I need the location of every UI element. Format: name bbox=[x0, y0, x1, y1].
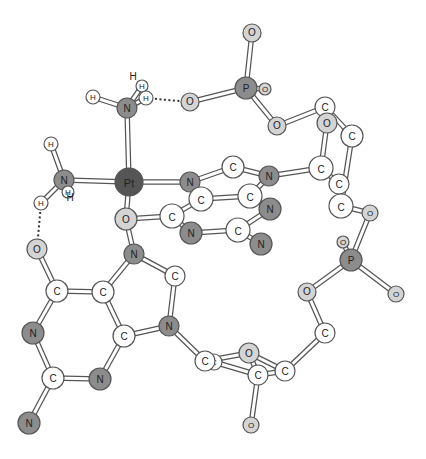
atom-label: N bbox=[165, 321, 172, 332]
atom-label: O bbox=[248, 27, 256, 38]
atom-label: O bbox=[33, 244, 41, 255]
atom-label: N bbox=[130, 249, 137, 260]
atom-label: O bbox=[303, 286, 311, 297]
atom-c: C bbox=[341, 125, 363, 147]
atom-h: H bbox=[136, 80, 148, 92]
atom-o: O bbox=[243, 24, 261, 42]
atom-h: H bbox=[44, 137, 58, 151]
atom-label: O bbox=[248, 421, 254, 430]
atom-c: C bbox=[226, 218, 250, 242]
atom-c: C bbox=[160, 204, 184, 228]
atom-n: N bbox=[259, 166, 279, 186]
atom-n: N bbox=[117, 98, 137, 118]
atom-o: O bbox=[388, 286, 404, 302]
atom-c: C bbox=[248, 365, 268, 385]
atom-label: N bbox=[25, 418, 32, 429]
atom-label: O bbox=[186, 96, 194, 107]
atom-label: C bbox=[337, 202, 344, 213]
atom-c: C bbox=[275, 361, 295, 381]
atom-label: C bbox=[49, 373, 56, 384]
atom-label: C bbox=[120, 331, 127, 342]
atom-label: H bbox=[139, 82, 145, 91]
atom-label: C bbox=[53, 286, 60, 297]
atom-n: N bbox=[180, 222, 202, 244]
atom-o: O bbox=[27, 239, 47, 259]
atom-label: H bbox=[48, 140, 54, 149]
atom-n: N bbox=[259, 198, 281, 220]
atom-c: C bbox=[46, 280, 68, 302]
atom-label: C bbox=[197, 195, 204, 206]
atom-o: O bbox=[181, 93, 199, 111]
atom-o: O bbox=[115, 208, 137, 230]
atom-c: C bbox=[238, 184, 262, 208]
atom-p: P bbox=[340, 249, 362, 271]
atom-c: C bbox=[329, 194, 353, 218]
hydrogen-label: H bbox=[66, 192, 73, 203]
atom-c: C bbox=[92, 281, 114, 303]
atom-c: C bbox=[222, 156, 244, 178]
atom-n: N bbox=[159, 316, 179, 336]
atom-n: N bbox=[22, 322, 44, 344]
atom-o: O bbox=[337, 236, 349, 248]
atom-o: O bbox=[362, 205, 378, 221]
atom-c: C bbox=[309, 156, 333, 180]
atom-label: O bbox=[245, 348, 253, 359]
atom-o: O bbox=[298, 283, 316, 301]
atom-c: C bbox=[329, 174, 349, 194]
atom-p: P bbox=[235, 77, 257, 99]
atom-label: Pt bbox=[124, 177, 134, 189]
atom-o: O bbox=[259, 83, 271, 95]
atom-label: H bbox=[38, 199, 44, 208]
atom-label: O bbox=[122, 214, 130, 225]
atom-label: N bbox=[186, 177, 193, 188]
atom-label: C bbox=[234, 226, 241, 237]
atom-label: H bbox=[90, 93, 96, 102]
atom-label: C bbox=[171, 271, 178, 282]
atom-label: P bbox=[243, 83, 250, 94]
atom-label: C bbox=[99, 287, 106, 298]
atom-o: O bbox=[243, 417, 259, 433]
atom-label: O bbox=[367, 209, 373, 218]
atom-n: N bbox=[250, 233, 272, 255]
atom-label: N bbox=[96, 374, 103, 385]
atom-label: N bbox=[257, 239, 264, 250]
atom-label: N bbox=[29, 328, 36, 339]
atom-label: N bbox=[60, 175, 67, 186]
atom-o: O bbox=[239, 343, 259, 363]
atom-c: C bbox=[315, 323, 335, 343]
molecule-diagram: OPOOOHHHNPtNHHHONCNCCCONCNNNCNCCNCNCNCOC… bbox=[0, 0, 426, 459]
atom-label: N bbox=[123, 103, 130, 114]
atom-h: H bbox=[34, 196, 48, 210]
atom-label: C bbox=[321, 328, 328, 339]
atom-c: C bbox=[189, 187, 213, 211]
atom-label: C bbox=[321, 102, 328, 113]
atom-c: C bbox=[42, 367, 64, 389]
atom-h: H bbox=[139, 91, 153, 105]
atom-label: O bbox=[393, 290, 399, 299]
atom-label: C bbox=[348, 131, 355, 142]
atom-label: C bbox=[335, 179, 342, 190]
atom-pt: Pt bbox=[115, 168, 143, 196]
atom-label: H bbox=[143, 94, 149, 103]
atom-label: O bbox=[340, 238, 346, 247]
atom-c: C bbox=[195, 351, 215, 371]
atom-c: C bbox=[165, 266, 185, 286]
atom-n: N bbox=[89, 368, 111, 390]
atom-label: N bbox=[265, 171, 272, 182]
atom-h: H bbox=[86, 90, 100, 104]
atom-label: C bbox=[246, 192, 253, 203]
atom-label: C bbox=[281, 366, 288, 377]
atom-label: C bbox=[317, 164, 324, 175]
atom-c: C bbox=[113, 325, 135, 347]
atom-label: C bbox=[229, 162, 236, 173]
molecule-canvas: OPOOOHHHNPtNHHHONCNCCCONCNNNCNCCNCNCNCOC… bbox=[0, 0, 426, 459]
atom-n: N bbox=[18, 412, 40, 434]
atom-label: C bbox=[168, 212, 175, 223]
atom-label: C bbox=[201, 356, 208, 367]
atom-label: O bbox=[323, 118, 331, 129]
atom-label: C bbox=[254, 370, 261, 381]
atom-n: N bbox=[124, 244, 144, 264]
atom-label: N bbox=[266, 204, 273, 215]
atom-o: O bbox=[317, 113, 337, 133]
atom-label: O bbox=[262, 85, 268, 94]
